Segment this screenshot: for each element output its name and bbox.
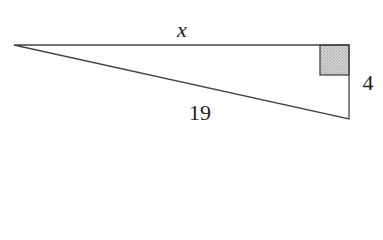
triangle bbox=[14, 45, 349, 119]
diagram-canvas: x 4 19 bbox=[0, 0, 383, 240]
triangle-figure: x 4 19 bbox=[0, 0, 383, 240]
side-label-4: 4 bbox=[363, 70, 374, 95]
side-label-x: x bbox=[176, 17, 187, 42]
right-angle-marker bbox=[320, 45, 349, 75]
hypotenuse-label-19: 19 bbox=[189, 100, 211, 125]
